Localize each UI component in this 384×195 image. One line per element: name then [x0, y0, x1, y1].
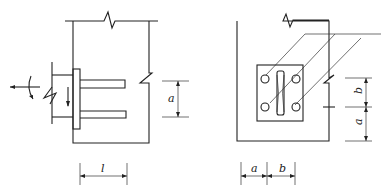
anchor-bar-bottom — [80, 111, 126, 118]
embedded-plate-diagram: a l b a a b — [0, 0, 384, 195]
right-view: b a a b — [237, 14, 381, 185]
anchor-head — [292, 75, 300, 83]
anchor-head — [261, 103, 269, 111]
arrowhead-icon — [66, 101, 70, 107]
left-view: a l — [10, 12, 189, 185]
dim-label-a: a — [168, 92, 175, 105]
diagram-canvas: a l b a a b — [0, 0, 384, 195]
anchor-bar-top — [80, 80, 125, 88]
dim-label-l: l — [101, 162, 105, 175]
top-break-line — [65, 12, 158, 28]
dim-label-b1: b — [352, 87, 365, 94]
dim-label-a1: a — [352, 118, 365, 125]
anchor-head — [261, 75, 269, 83]
dim-label-b: b — [279, 162, 286, 175]
attached-member-break — [44, 87, 56, 104]
weld-stiffener — [277, 71, 284, 115]
arrowhead-icon — [10, 85, 15, 89]
embedded-plate-front — [257, 65, 303, 121]
member-outline — [73, 21, 152, 143]
member-outline — [237, 14, 334, 141]
embedded-plate — [73, 69, 80, 129]
dim-label-a: a — [251, 162, 258, 175]
arrowhead-icon — [29, 95, 33, 99]
